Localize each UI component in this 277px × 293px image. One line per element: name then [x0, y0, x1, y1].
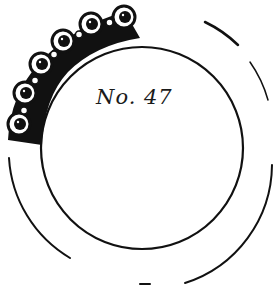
outer-ring-arc-right [185, 165, 272, 283]
outer-ring-arc-right-upper [250, 62, 268, 100]
inner-circle [41, 47, 243, 249]
bead [80, 13, 102, 35]
outer-ring-arc-top [205, 22, 238, 45]
bead [113, 6, 135, 28]
bead-knob [21, 107, 28, 114]
bead [8, 113, 30, 135]
beaded-band [8, 6, 140, 145]
bead [14, 82, 36, 104]
bead-knob [32, 77, 39, 84]
ring-diagram: No. 47 [0, 0, 277, 293]
bead-knob [51, 51, 58, 58]
figure-label: No. 47 [95, 85, 173, 109]
bead [30, 53, 52, 75]
bead [52, 30, 74, 52]
